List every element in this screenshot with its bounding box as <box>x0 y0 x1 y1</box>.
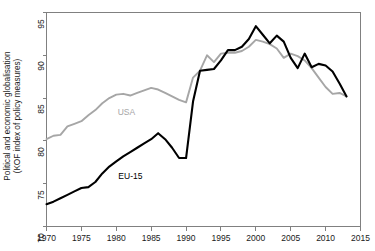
series-label-usa: USA <box>118 107 135 117</box>
series-line-eu-15 <box>47 26 347 204</box>
series-label-eu-15: EU-15 <box>118 171 142 181</box>
axis-ticks <box>43 13 361 231</box>
axes-spines <box>47 13 361 227</box>
data-series <box>47 26 347 204</box>
